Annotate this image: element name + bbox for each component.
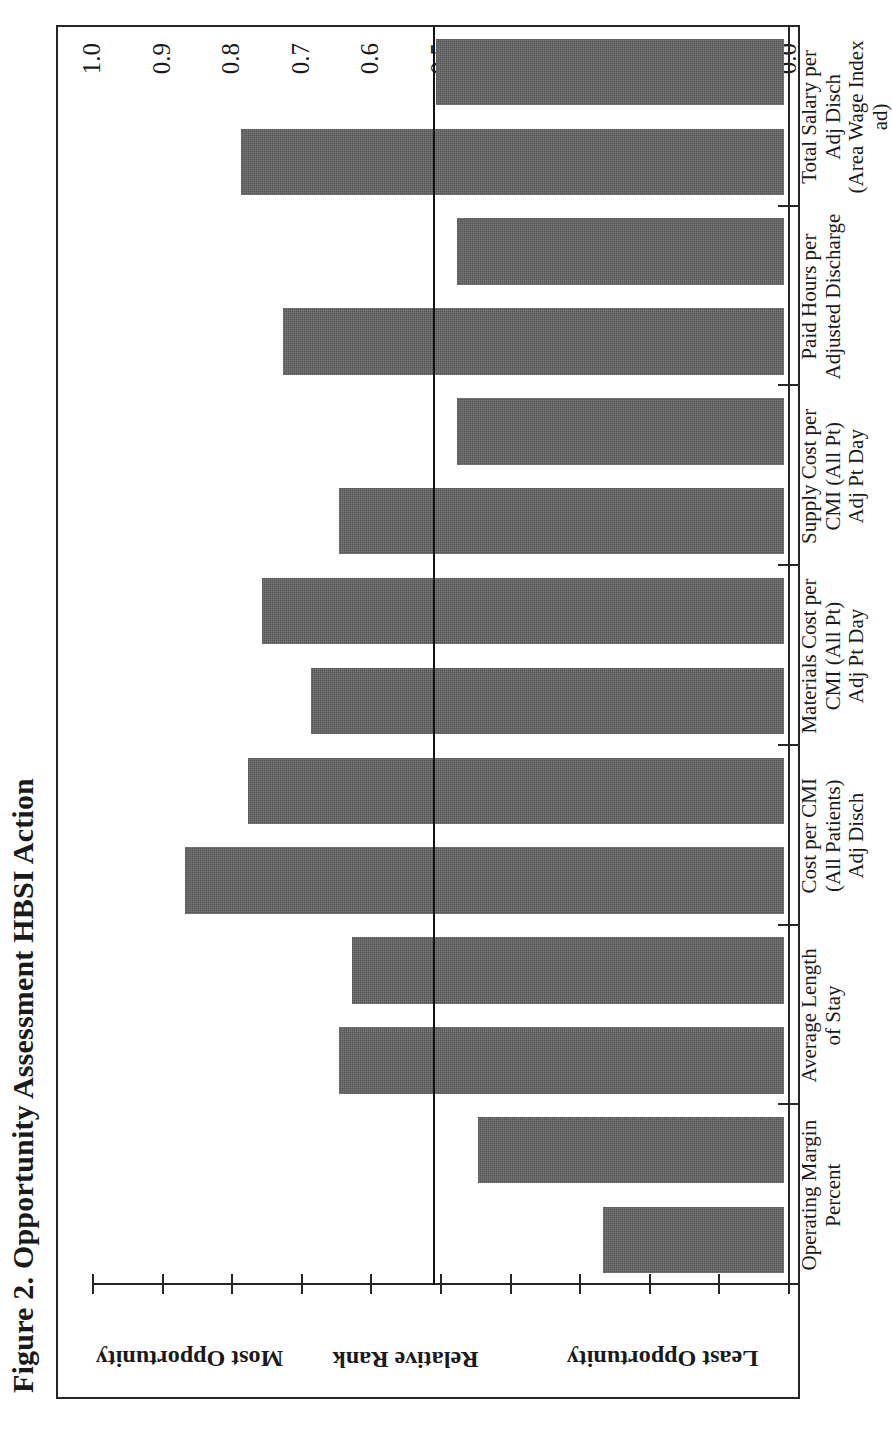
category-label-line: (Area Wage Index ad): [845, 27, 892, 207]
axis-tick: [579, 1274, 581, 1294]
category-label: Average Lengthof Stay: [798, 926, 845, 1106]
axis-tick-label: 0.6: [356, 43, 384, 74]
bar: [478, 1117, 784, 1183]
axis-tick: [92, 1274, 94, 1294]
category-label-line: Adj Disch: [822, 27, 846, 207]
category-label-line: Adj Disch: [845, 746, 869, 926]
category-tick: [778, 1283, 798, 1285]
category-tick: [778, 924, 798, 926]
category-tick: [778, 384, 798, 386]
category-label-line: Adj Pt Day: [845, 566, 869, 746]
category-label-line: Cost per CMI: [798, 746, 822, 926]
bar: [457, 218, 784, 284]
category-label-line: Operating Margin: [798, 1105, 822, 1285]
axis-tick: [231, 1274, 233, 1294]
bar: [436, 39, 784, 105]
axis-zone-label: Relative Rank: [332, 1346, 478, 1373]
bar: [339, 1027, 784, 1093]
category-label-line: CMI (All Pt): [822, 386, 846, 566]
category-tick: [778, 205, 798, 207]
category-label-line: Percent: [822, 1105, 846, 1285]
axis-tick: [510, 1274, 512, 1294]
category-label-line: Average Length: [798, 926, 822, 1106]
bar: [248, 758, 784, 824]
category-baseline: [788, 27, 790, 1285]
category-label-line: CMI (All Pt): [822, 566, 846, 746]
axis-tick-label: 0.7: [287, 43, 315, 74]
category-label: Materials Cost perCMI (All Pt)Adj Pt Day: [798, 566, 869, 746]
bar: [352, 937, 784, 1003]
category-label-line: Paid Hours per: [798, 207, 822, 387]
category-label-line: of Stay: [822, 926, 846, 1106]
axis-tick: [370, 1274, 372, 1294]
axis-tick-label: 1.0: [78, 43, 106, 74]
axis-tick: [440, 1274, 442, 1294]
axis-tick: [718, 1274, 720, 1294]
bar: [283, 308, 784, 374]
figure-title: Figure 2. Opportunity Assessment HBSI Ac…: [6, 778, 40, 1393]
bar: [241, 129, 784, 195]
category-label: Total Salary perAdj Disch(Area Wage Inde…: [798, 27, 892, 207]
category-label-line: Supply Cost per: [798, 386, 822, 566]
category-tick: [778, 25, 798, 27]
category-tick: [778, 564, 798, 566]
category-label: Supply Cost perCMI (All Pt)Adj Pt Day: [798, 386, 869, 566]
bar: [339, 488, 784, 554]
category-label-line: (All Patients): [822, 746, 846, 926]
value-axis-line: [92, 1283, 788, 1285]
bar: [311, 668, 784, 734]
reference-line: [433, 27, 435, 1285]
axis-tick-label: 0.9: [148, 43, 176, 74]
category-tick: [778, 744, 798, 746]
bar: [457, 398, 784, 464]
axis-zone-label: Most Opportunity: [96, 1345, 283, 1372]
axis-tick-label: 0.8: [217, 43, 245, 74]
axis-zone-label: Least Opportunity: [567, 1345, 758, 1372]
axis-tick: [301, 1274, 303, 1294]
category-label: Cost per CMI(All Patients)Adj Disch: [798, 746, 869, 926]
category-label-line: Total Salary per: [798, 27, 822, 207]
axis-tick: [649, 1274, 651, 1294]
bar: [603, 1207, 784, 1273]
category-label-line: Materials Cost per: [798, 566, 822, 746]
category-tick: [778, 1103, 798, 1105]
bar: [262, 578, 784, 644]
bar: [185, 847, 784, 913]
category-label-line: Adjusted Discharge: [822, 207, 846, 387]
plot-frame: 1.00.90.80.70.60.50.40.30.20.10.0Most Op…: [56, 25, 800, 1399]
category-label: Paid Hours perAdjusted Discharge: [798, 207, 845, 387]
category-label: Operating MarginPercent: [798, 1105, 845, 1285]
category-label-line: Adj Pt Day: [845, 386, 869, 566]
axis-tick: [162, 1274, 164, 1294]
plot-area: 1.00.90.80.70.60.50.40.30.20.10.0Most Op…: [58, 27, 798, 1397]
